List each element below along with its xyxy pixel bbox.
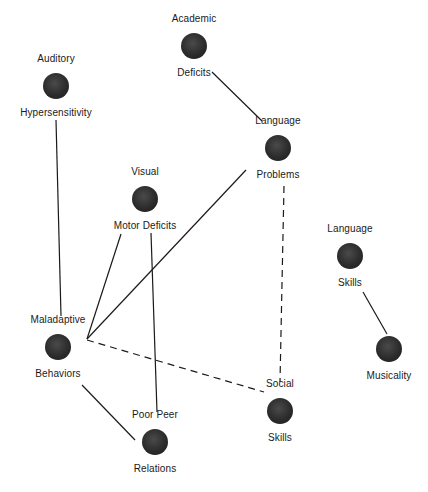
node-label-bottom: Skills — [268, 432, 292, 444]
edge-language-skills-to-musicality — [363, 292, 387, 334]
edge-visual-to-poor-peer — [151, 233, 157, 412]
node-circle-icon — [376, 336, 402, 362]
node-circle-icon — [142, 429, 168, 455]
node-label-top: Social — [266, 378, 294, 390]
node-label-bottom: Motor Deficits — [114, 220, 177, 232]
node-label-top: Visual — [131, 166, 159, 178]
node-label-top: Maladaptive — [30, 314, 85, 326]
node-label-top: Auditory — [37, 53, 75, 65]
edge-language-problems-to-social — [280, 186, 284, 382]
node-label-bottom: Musicality — [367, 370, 412, 382]
edge-maladaptive-to-social — [87, 340, 264, 392]
node-label-bottom: Skills — [338, 277, 362, 289]
node-label-bottom: Relations — [134, 463, 177, 475]
node-label-top: Language — [255, 115, 300, 127]
node-circle-icon — [43, 73, 69, 99]
node-label-bottom: Deficits — [177, 67, 211, 79]
edge-visual-to-maladaptive — [87, 234, 121, 339]
node-label-top: Language — [327, 223, 372, 235]
edge-maladaptive-to-poor-peer — [82, 385, 135, 440]
concept-diagram — [0, 0, 428, 492]
node-label-bottom: Hypersensitivity — [20, 107, 92, 119]
node-label-top: Academic — [172, 13, 217, 25]
node-circle-icon — [337, 243, 363, 269]
node-circle-icon — [265, 135, 291, 161]
node-label-top: Poor Peer — [132, 409, 178, 421]
node-label-bottom: Behaviors — [35, 368, 80, 380]
edge-auditory-to-maladaptive — [56, 120, 61, 316]
node-circle-icon — [45, 334, 71, 360]
node-circle-icon — [181, 33, 207, 59]
node-circle-icon — [132, 186, 158, 212]
node-circle-icon — [267, 398, 293, 424]
edge-academic-to-language-problems — [212, 72, 262, 121]
node-label-bottom: Problems — [256, 169, 299, 181]
edge-language-problems-to-maladaptive — [87, 170, 246, 339]
